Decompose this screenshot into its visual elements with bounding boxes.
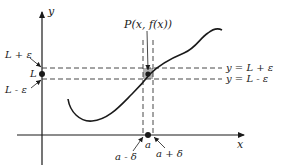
pointer-L-plus-epsilon xyxy=(30,58,41,67)
label-line-upper: y = L + ε xyxy=(225,62,273,73)
epsilon-delta-diagram: y x L + ε L L - ε P(x, f(x)) a a - δ a +… xyxy=(0,0,282,168)
pointer-L-minus-epsilon xyxy=(31,80,41,88)
pointer-a-minus-delta xyxy=(133,137,143,151)
label-L: L xyxy=(29,68,37,79)
point-L xyxy=(39,71,45,77)
label-a-plus-delta: a + δ xyxy=(156,148,183,159)
label-a-minus-delta: a - δ xyxy=(115,151,137,162)
pointer-a-plus-delta xyxy=(154,137,165,148)
y-axis-label: y xyxy=(47,5,55,18)
label-L-minus-epsilon: L - ε xyxy=(4,84,27,95)
point-P xyxy=(145,71,150,76)
label-point-P: P(x, f(x)) xyxy=(123,18,172,31)
label-line-lower: y = L - ε xyxy=(225,73,268,84)
label-a: a xyxy=(145,139,151,150)
point-a xyxy=(145,132,151,138)
pointer-point-P xyxy=(147,31,148,70)
x-axis-label: x xyxy=(237,138,244,151)
label-L-plus-epsilon: L + ε xyxy=(4,49,32,60)
